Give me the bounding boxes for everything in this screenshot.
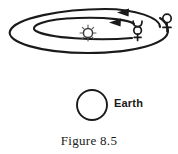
earth-body	[77, 90, 107, 120]
venus-symbol	[163, 14, 171, 31]
sun-symbol	[80, 25, 96, 41]
figure-8-5: Earth Figure 8.5	[0, 0, 178, 154]
earth-label: Earth	[114, 97, 143, 110]
orbit-diagram-svg	[0, 0, 178, 154]
mercury-symbol	[133, 21, 142, 40]
figure-caption: Figure 8.5	[0, 133, 178, 149]
venus-orbit-path	[10, 9, 168, 53]
